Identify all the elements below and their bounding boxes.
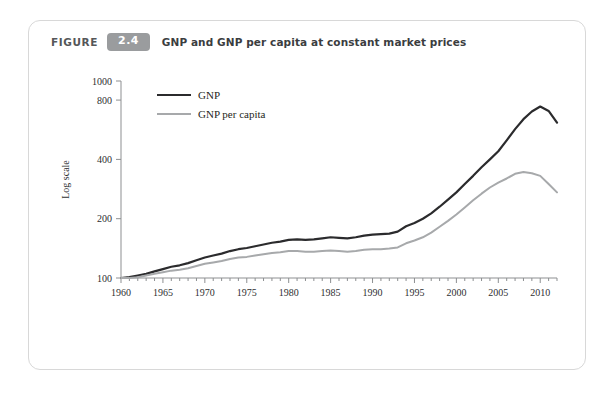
x-tick-label: 2010 xyxy=(530,287,550,298)
x-tick-label: 2005 xyxy=(488,287,508,298)
y-tick-label: 200 xyxy=(97,213,112,224)
y-tick-label: 800 xyxy=(97,95,112,106)
x-tick-label: 1975 xyxy=(237,287,257,298)
x-tick-label: 1970 xyxy=(195,287,215,298)
series-line-gnp-per-capita xyxy=(121,172,557,278)
figure-caption: GNP and GNP per capita at constant marke… xyxy=(162,36,466,48)
y-tick-label: 400 xyxy=(97,154,112,165)
chart-axes xyxy=(121,81,557,278)
x-tick-label: 1985 xyxy=(321,287,341,298)
y-tick-label: 1000 xyxy=(92,76,112,87)
x-tick-label: 1990 xyxy=(363,287,383,298)
figure-label: FIGURE xyxy=(51,36,98,48)
figure-header: FIGURE 2.4 GNP and GNP per capita at con… xyxy=(29,21,585,63)
y-tick-label: 100 xyxy=(97,273,112,284)
series-line-gnp xyxy=(121,107,557,278)
y-axis-title: Log scale xyxy=(60,160,71,199)
x-tick-label: 1980 xyxy=(279,287,299,298)
x-tick-label: 2000 xyxy=(446,287,466,298)
line-chart: 1000800400200100Log scale196019651970197… xyxy=(29,63,587,371)
chart-plot-area: 1000800400200100Log scale196019651970197… xyxy=(29,63,585,371)
figure-card: FIGURE 2.4 GNP and GNP per capita at con… xyxy=(28,20,586,370)
x-tick-label: 1965 xyxy=(153,287,173,298)
figure-number-badge: 2.4 xyxy=(107,33,150,50)
legend-label-gnp-per-capita: GNP per capita xyxy=(198,108,266,120)
x-tick-label: 1960 xyxy=(111,287,131,298)
legend-label-gnp: GNP xyxy=(198,89,220,101)
x-tick-label: 1995 xyxy=(404,287,424,298)
